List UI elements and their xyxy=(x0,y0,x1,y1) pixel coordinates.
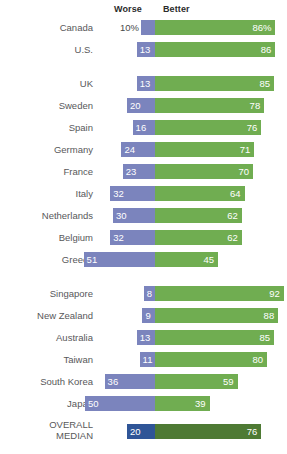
bar-value-worse: 24 xyxy=(124,143,135,156)
row-bars: 892 xyxy=(0,286,287,302)
bar-value-better: 92 xyxy=(155,287,280,300)
row-bars: 1385 xyxy=(0,330,287,346)
chart-row: Greece5145 xyxy=(0,252,287,268)
row-bars: 2471 xyxy=(0,142,287,158)
legend-label-worse: Worse xyxy=(114,4,142,14)
bar-value-better: 39 xyxy=(155,397,206,410)
row-bars: 2370 xyxy=(0,164,287,180)
chart-row: France2370 xyxy=(0,164,287,180)
bar-value-worse: 50 xyxy=(88,397,99,410)
bar-value-worse: 8 xyxy=(147,287,152,300)
bar-value-better: 86% xyxy=(155,21,271,34)
bar-value-better: 45 xyxy=(155,253,214,266)
bar-value-worse: 9 xyxy=(145,309,150,322)
row-bars: 2076 xyxy=(0,424,287,440)
chart-row: U.S.1386 xyxy=(0,42,287,58)
chart-row: South Korea3659 xyxy=(0,374,287,390)
chart-row: Canada10%86% xyxy=(0,20,287,36)
row-bars: 5039 xyxy=(0,396,287,412)
row-bars: 1180 xyxy=(0,352,287,368)
row-bars: 5145 xyxy=(0,252,287,268)
bar-value-better: 62 xyxy=(155,209,238,222)
chart-row: Australia1385 xyxy=(0,330,287,346)
bar-value-worse: 32 xyxy=(113,231,124,244)
chart-row: OVERALLMEDIAN2076 xyxy=(0,424,287,440)
chart-row: UK1385 xyxy=(0,76,287,92)
chart-row: Italy3264 xyxy=(0,186,287,202)
bar-value-better: 86 xyxy=(155,43,271,56)
row-bars: 1386 xyxy=(0,42,287,58)
diverging-bar-chart: Worse Better Canada10%86%U.S.1386UK1385S… xyxy=(0,0,287,454)
row-bars: 10%86% xyxy=(0,20,287,36)
bar-value-better: 76 xyxy=(155,425,257,438)
chart-row: New Zealand988 xyxy=(0,308,287,324)
bar-value-worse: 13 xyxy=(140,77,151,90)
bar-value-worse: 36 xyxy=(108,375,119,388)
bar-value-worse: 20 xyxy=(130,425,141,438)
chart-row: Sweden2078 xyxy=(0,98,287,114)
legend-label-better: Better xyxy=(163,4,190,14)
bar-value-better: 70 xyxy=(155,165,249,178)
bar-value-better: 64 xyxy=(155,187,241,200)
bar-value-worse: 13 xyxy=(140,43,151,56)
bar-value-better: 85 xyxy=(155,77,270,90)
bar-value-better: 71 xyxy=(155,143,250,156)
bar-value-better: 78 xyxy=(155,99,260,112)
chart-row: Japan5039 xyxy=(0,396,287,412)
row-bars: 3659 xyxy=(0,374,287,390)
bar-value-better: 80 xyxy=(155,353,263,366)
bar-value-worse: 30 xyxy=(116,209,127,222)
row-bars: 1676 xyxy=(0,120,287,136)
chart-row: Belgium3262 xyxy=(0,230,287,246)
bar-value-better: 59 xyxy=(155,375,234,388)
bar-value-better: 62 xyxy=(155,231,238,244)
bar-value-better: 76 xyxy=(155,121,257,134)
row-bars: 988 xyxy=(0,308,287,324)
bar-value-worse: 16 xyxy=(136,121,147,134)
chart-row: Spain1676 xyxy=(0,120,287,136)
chart-row: Netherlands3062 xyxy=(0,208,287,224)
bar-value-worse: 20 xyxy=(130,99,141,112)
bar-segment-worse xyxy=(141,20,155,35)
bar-value-worse: 32 xyxy=(113,187,124,200)
chart-row: Germany2471 xyxy=(0,142,287,158)
bar-value-worse: 11 xyxy=(143,353,153,366)
bar-value-worse: 23 xyxy=(126,165,137,178)
row-bars: 3062 xyxy=(0,208,287,224)
chart-row: Taiwan1180 xyxy=(0,352,287,368)
row-bars: 3264 xyxy=(0,186,287,202)
row-bars: 3262 xyxy=(0,230,287,246)
bar-value-worse: 10% xyxy=(113,21,139,34)
bar-value-worse: 13 xyxy=(140,331,151,344)
bar-value-better: 85 xyxy=(155,331,270,344)
row-bars: 1385 xyxy=(0,76,287,92)
chart-row: Singapore892 xyxy=(0,286,287,302)
row-bars: 2078 xyxy=(0,98,287,114)
bar-value-worse: 51 xyxy=(87,253,98,266)
chart-legend: Worse Better xyxy=(0,3,287,17)
bar-value-better: 88 xyxy=(155,309,274,322)
